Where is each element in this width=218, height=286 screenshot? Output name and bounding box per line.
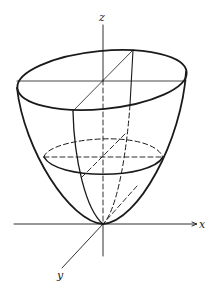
- front-meridian: [73, 111, 103, 224]
- mid-ellipse-front: [44, 157, 163, 174]
- z-axis-label: z: [98, 11, 105, 24]
- back-meridian-upper: [130, 50, 133, 105]
- back-meridian-hidden: [103, 105, 130, 224]
- paraboloid-diagram: z x y: [0, 0, 218, 286]
- paraboloid-right-profile: [103, 72, 186, 224]
- y-axis-label: y: [56, 269, 64, 282]
- mid-ellipse-back: [44, 139, 163, 157]
- top-rim-ellipse: [15, 43, 190, 117]
- x-axis-label: x: [199, 218, 206, 231]
- y-axis: [62, 224, 103, 268]
